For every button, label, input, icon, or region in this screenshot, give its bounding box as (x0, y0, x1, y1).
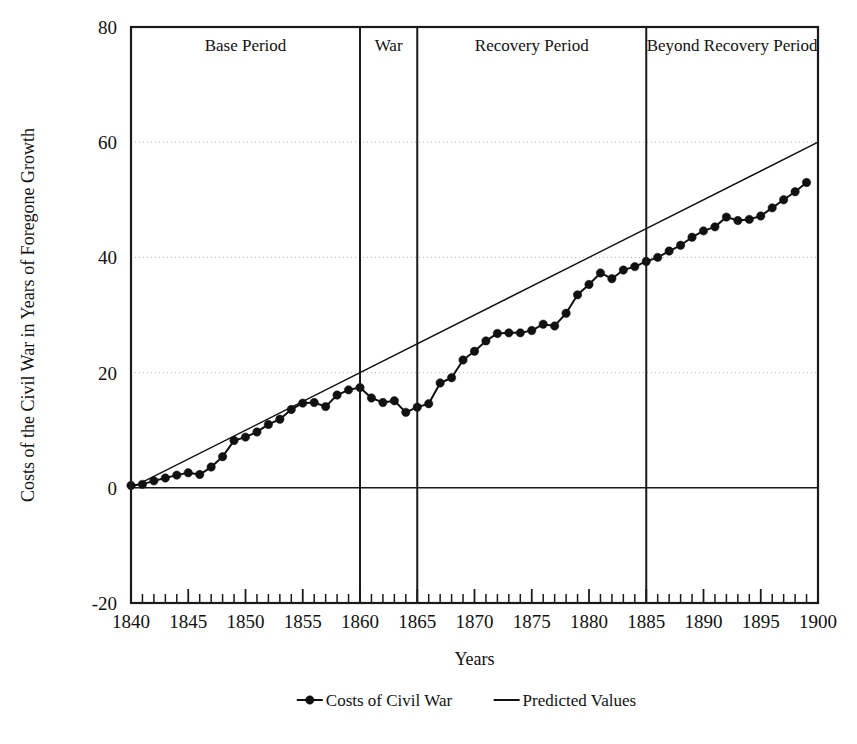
x-tick-label: 1860 (341, 611, 379, 632)
period-label: Base Period (205, 36, 287, 55)
y-axis-tick-labels: 806040200-20 (92, 17, 117, 614)
data-point (722, 213, 730, 221)
data-point (493, 329, 501, 337)
data-point (676, 241, 684, 249)
data-point (539, 320, 547, 328)
legend-marker-costs (306, 696, 314, 704)
data-point (230, 436, 238, 444)
data-point (699, 227, 707, 235)
period-label: Recovery Period (475, 36, 589, 55)
data-point (791, 188, 799, 196)
period-band-labels: Base PeriodWarRecovery PeriodBeyond Reco… (205, 36, 818, 55)
data-point (516, 329, 524, 337)
data-point (367, 394, 375, 402)
x-tick-label: 1895 (742, 611, 780, 632)
y-tick-label: 40 (98, 247, 117, 268)
x-tick-label: 1890 (685, 611, 723, 632)
data-point (757, 212, 765, 220)
data-point (711, 223, 719, 231)
data-point (779, 196, 787, 204)
data-point (447, 374, 455, 382)
data-point (654, 253, 662, 261)
data-point (264, 420, 272, 428)
x-axis-ticks (131, 589, 818, 603)
data-point (379, 398, 387, 406)
legend-label-predicted: Predicted Values (523, 691, 636, 710)
data-point (665, 247, 673, 255)
axis-titles: YearsCosts of the Civil War in Years of … (18, 128, 495, 669)
x-tick-label: 1875 (513, 611, 551, 632)
y-tick-label: 0 (108, 478, 118, 499)
data-point (299, 399, 307, 407)
data-point (390, 397, 398, 405)
x-tick-label: 1855 (284, 611, 322, 632)
y-tick-label: 20 (98, 363, 117, 384)
legend-label-costs: Costs of Civil War (326, 691, 453, 710)
data-point (173, 471, 181, 479)
period-dividers (360, 27, 646, 603)
data-point (333, 391, 341, 399)
x-tick-label: 1885 (627, 611, 665, 632)
data-point (596, 269, 604, 277)
data-point (287, 405, 295, 413)
data-point (608, 275, 616, 283)
chart-canvas: 1840184518501855186018651870187518801885… (0, 0, 857, 744)
data-point (768, 204, 776, 212)
data-point (528, 326, 536, 334)
data-point (253, 428, 261, 436)
data-point (631, 262, 639, 270)
period-label: War (375, 36, 403, 55)
chart-legend: Costs of Civil WarPredicted Values (297, 691, 636, 710)
chart-figure: 1840184518501855186018651870187518801885… (0, 0, 857, 744)
data-point (276, 415, 284, 423)
data-point (619, 266, 627, 274)
data-point (241, 433, 249, 441)
data-point (138, 480, 146, 488)
x-tick-label: 1865 (398, 611, 436, 632)
data-point (184, 469, 192, 477)
data-point (425, 400, 433, 408)
data-point (196, 470, 204, 478)
x-tick-label: 1880 (570, 611, 608, 632)
data-point (802, 178, 810, 186)
x-tick-label: 1845 (169, 611, 207, 632)
data-point (161, 474, 169, 482)
data-point (459, 356, 467, 364)
data-point (550, 322, 558, 330)
data-point (218, 452, 226, 460)
data-point (344, 386, 352, 394)
x-axis-title: Years (454, 649, 494, 669)
data-point (310, 398, 318, 406)
x-tick-label: 1900 (799, 611, 837, 632)
data-point (562, 309, 570, 317)
y-tick-label: 80 (98, 17, 117, 38)
y-tick-label: -20 (92, 593, 117, 614)
period-label: Beyond Recovery Period (647, 36, 818, 55)
data-point (734, 216, 742, 224)
x-tick-label: 1870 (456, 611, 494, 632)
data-point (150, 477, 158, 485)
data-point (402, 408, 410, 416)
data-point (688, 233, 696, 241)
costs-of-civil-war-markers (127, 178, 811, 489)
predicted-values-line (131, 142, 818, 488)
data-point (585, 280, 593, 288)
data-point (207, 463, 215, 471)
x-tick-label: 1850 (227, 611, 265, 632)
y-tick-label: 60 (98, 132, 117, 153)
data-point (436, 379, 444, 387)
x-axis-tick-labels: 1840184518501855186018651870187518801885… (112, 611, 837, 632)
trend-line-predicted (131, 142, 818, 488)
data-point (745, 215, 753, 223)
data-point (482, 337, 490, 345)
y-axis-title: Costs of the Civil War in Years of Foreg… (18, 128, 38, 502)
data-point (321, 402, 329, 410)
data-point (505, 329, 513, 337)
x-tick-label: 1840 (112, 611, 150, 632)
data-point (470, 347, 478, 355)
gridlines (131, 142, 818, 372)
data-point (573, 291, 581, 299)
